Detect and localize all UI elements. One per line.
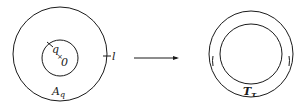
diagram-canvas: q × 0 l Aq Tτ [0,0,307,111]
region-label-sub: q [60,90,65,99]
region-label-main: A [51,85,60,98]
left-figure: q × 0 l Aq [13,7,116,101]
inner-ellipse [220,24,282,84]
boundary-label: l [112,50,116,63]
right-figure: Tτ [209,11,293,99]
region-label-t: Tτ [243,85,257,99]
region-label-a: Aq [51,85,65,99]
left-glue-mark [213,56,214,66]
right-glue-mark [289,56,290,66]
torus-label-sub: τ [251,89,257,99]
map-arrow [134,56,179,60]
arrow-head [173,56,179,60]
center-label: 0 [61,56,68,69]
